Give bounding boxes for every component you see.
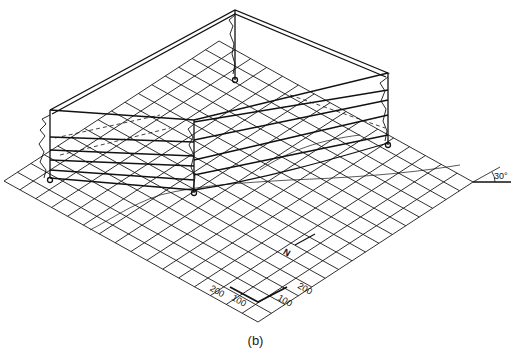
angle-label: 30° — [494, 171, 508, 181]
fence-box — [39, 10, 460, 230]
scale-label-200-right: 200 — [296, 281, 314, 297]
scale-label-200-left: 200 — [208, 283, 226, 299]
scale-label-100-right: 100 — [276, 293, 294, 309]
diagram-canvas: 30° N 200 100 100 200 — [0, 0, 511, 354]
isometric-fence-diagram: 30° N 200 100 100 200 (b) — [0, 0, 511, 354]
annotations — [230, 167, 511, 302]
figure-caption: (b) — [0, 333, 511, 348]
